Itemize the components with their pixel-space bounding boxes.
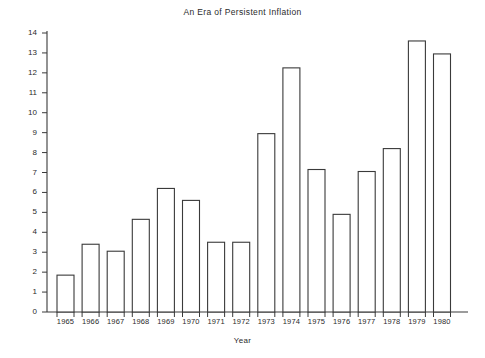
y-tick-label: 7 — [15, 169, 37, 177]
bar — [308, 170, 325, 312]
y-tick-label: 3 — [15, 248, 37, 256]
bar — [283, 68, 300, 312]
bar — [434, 54, 451, 312]
bar — [333, 214, 350, 312]
bar — [107, 251, 124, 312]
bar — [408, 41, 425, 312]
y-tick-label: 4 — [15, 228, 37, 236]
x-tick-label: 1980 — [422, 318, 462, 326]
bar — [383, 149, 400, 312]
bar-chart: An Era of Persistent Inflation Percent o… — [0, 0, 485, 358]
y-tick-label: 5 — [15, 208, 37, 216]
y-tick-label: 11 — [15, 89, 37, 97]
bar — [233, 242, 250, 312]
y-tick-label: 12 — [15, 69, 37, 77]
bar — [132, 219, 149, 312]
y-tick-label: 13 — [15, 49, 37, 57]
y-tick-label: 2 — [15, 268, 37, 276]
y-tick-label: 9 — [15, 129, 37, 137]
y-tick-label: 10 — [15, 109, 37, 117]
y-tick-label: 0 — [15, 308, 37, 316]
bar — [157, 188, 174, 312]
y-tick-label: 8 — [15, 149, 37, 157]
bar — [358, 172, 375, 312]
bars — [57, 41, 451, 312]
y-tick-label: 1 — [15, 288, 37, 296]
bar — [82, 244, 99, 312]
plot-area — [0, 0, 485, 358]
y-tick-label: 6 — [15, 188, 37, 196]
y-tick-marks — [42, 33, 47, 312]
bar — [183, 200, 200, 312]
y-tick-label: 14 — [15, 29, 37, 37]
bar — [208, 242, 225, 312]
bar — [258, 134, 275, 312]
bar — [57, 275, 74, 312]
